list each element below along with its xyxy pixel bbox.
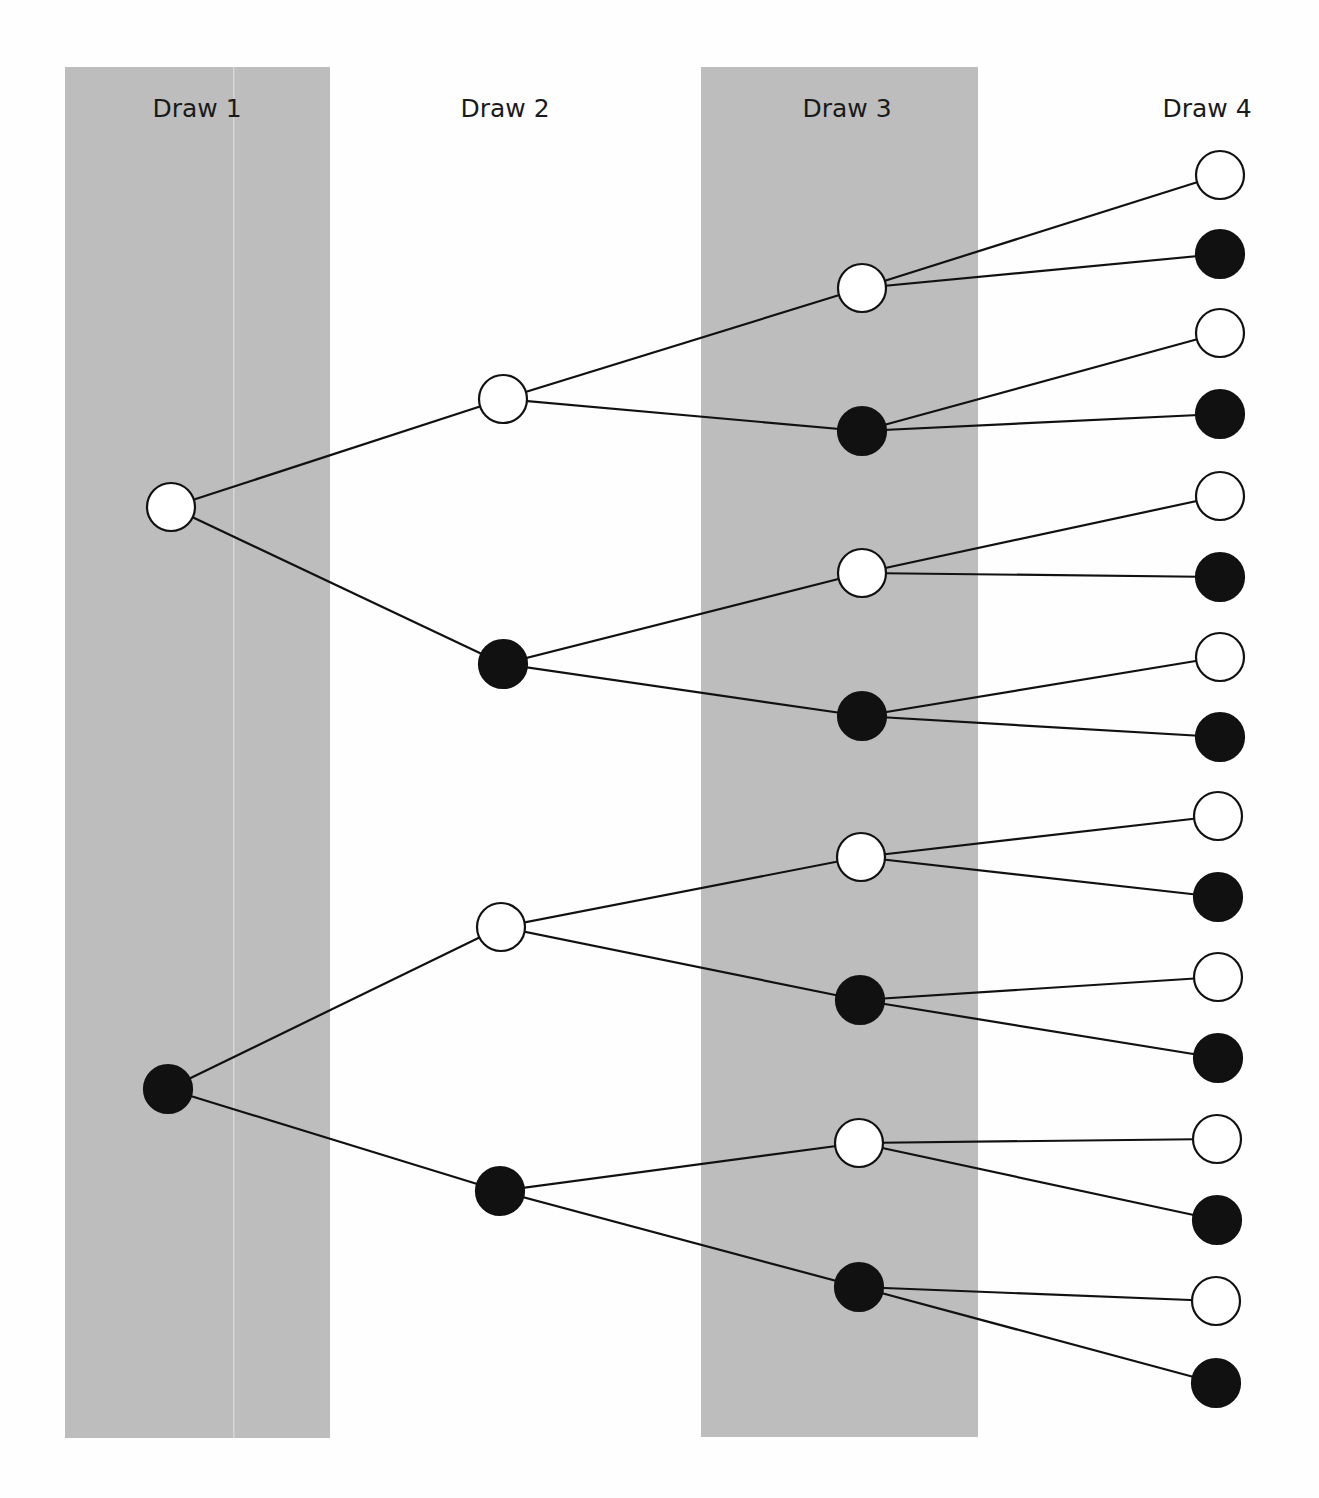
- white-ball-node-d4_5: [1196, 472, 1244, 520]
- white-ball-node-d4_7: [1196, 633, 1244, 681]
- black-ball-node-d4_2: [1196, 230, 1244, 278]
- black-ball-node-d4_4: [1196, 390, 1244, 438]
- white-ball-node-d4_1: [1196, 151, 1244, 199]
- draw-label-3: Draw 3: [802, 94, 891, 123]
- black-ball-node-d2_wb: [479, 640, 527, 688]
- white-ball-node-d3_bww: [837, 833, 885, 881]
- white-ball-node-d3_www: [838, 264, 886, 312]
- draw-label-1: Draw 1: [152, 94, 241, 123]
- panel-seam-line: [233, 67, 235, 1438]
- white-ball-node-d4_15: [1192, 1277, 1240, 1325]
- black-ball-node-d4_10: [1194, 873, 1242, 921]
- black-ball-node-d3_wbb: [838, 692, 886, 740]
- black-ball-node-d4_12: [1194, 1034, 1242, 1082]
- white-ball-node-d2_ww: [479, 375, 527, 423]
- white-ball-node-d3_wbw: [838, 549, 886, 597]
- shaded-panel-draw-1: [65, 67, 330, 1438]
- white-ball-node-d4_9: [1194, 792, 1242, 840]
- black-ball-node-d2_bb: [476, 1167, 524, 1215]
- black-ball-node-d1_b: [144, 1065, 192, 1113]
- white-ball-node-d4_3: [1196, 309, 1244, 357]
- black-ball-node-d4_16: [1192, 1359, 1240, 1407]
- draw-label-4: Draw 4: [1162, 94, 1251, 123]
- shaded-panel-draw-3: [701, 67, 978, 1437]
- draw-label-2: Draw 2: [460, 94, 549, 123]
- black-ball-node-d3_bbb: [835, 1263, 883, 1311]
- white-ball-node-d4_11: [1194, 953, 1242, 1001]
- white-ball-node-d2_bw: [477, 903, 525, 951]
- white-ball-node-d4_13: [1193, 1115, 1241, 1163]
- white-ball-node-d3_bbw: [835, 1119, 883, 1167]
- probability-tree-diagram: Draw 1Draw 2Draw 3Draw 4: [0, 0, 1319, 1498]
- shaded-column-panels: [65, 67, 978, 1438]
- black-ball-node-d4_8: [1196, 713, 1244, 761]
- black-ball-node-d4_14: [1193, 1196, 1241, 1244]
- black-ball-node-d3_wwb: [838, 407, 886, 455]
- white-ball-node-d1_w: [147, 483, 195, 531]
- black-ball-node-d3_bwb: [836, 976, 884, 1024]
- black-ball-node-d4_6: [1196, 553, 1244, 601]
